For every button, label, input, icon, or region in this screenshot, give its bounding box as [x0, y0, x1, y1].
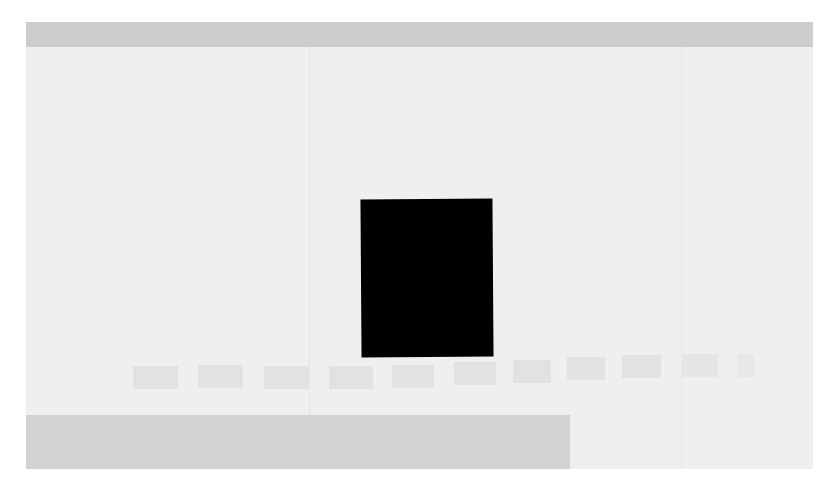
column-divider [681, 47, 682, 469]
thumbnail-1[interactable] [133, 366, 178, 389]
header-bar [26, 22, 813, 47]
thumbnail-2[interactable] [198, 365, 243, 388]
thumbnail-5[interactable] [392, 365, 434, 388]
thumbnail-3[interactable] [264, 366, 309, 389]
app-window [26, 22, 813, 469]
thumbnail-10[interactable] [682, 354, 718, 377]
thumbnail-7[interactable] [513, 360, 551, 383]
thumbnail-9[interactable] [622, 355, 661, 378]
media-viewer[interactable] [360, 199, 493, 358]
column-divider [309, 47, 310, 469]
thumbnail-11[interactable] [737, 354, 755, 377]
thumbnail-6[interactable] [454, 362, 496, 385]
thumbnail-4[interactable] [329, 366, 373, 389]
bottom-panel [26, 415, 570, 469]
thumbnail-8[interactable] [567, 357, 605, 380]
